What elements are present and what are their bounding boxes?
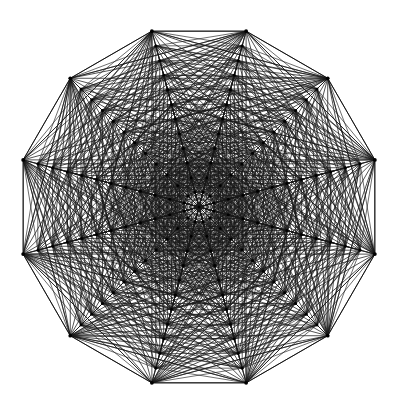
graph-vertex [315,323,318,326]
graph-vertex [186,162,189,165]
graph-vertex [80,174,83,177]
graph-vertex [112,291,115,294]
graph-vertex [158,352,161,355]
graph-vertex [285,182,288,185]
graph-vertex [187,195,190,198]
graph-vertex [122,130,125,133]
graph-vertex [166,88,169,91]
graph-vertex [168,213,171,216]
graph-vertex [201,191,204,194]
graph-vertex [205,176,208,179]
graph-vertex [21,252,25,256]
graph-vertex [271,225,274,228]
graph-vertex [233,337,236,340]
graph-vertex [155,248,158,251]
graph-vertex [329,170,332,173]
graph-vertex [133,141,136,144]
graph-vertex [165,238,168,241]
graph-vertex [237,59,240,62]
graph-vertex [182,147,185,150]
graph-vertex [90,313,93,316]
graph-vertex [154,44,157,47]
graph-vertex [217,279,220,282]
graph-vertex [273,130,276,133]
graph-vertex [225,308,228,311]
graph-vertex [124,225,127,228]
graph-vertex [300,178,303,181]
graph-vertex [170,103,173,106]
graph-vertex [190,176,193,179]
graph-vertex [208,195,211,198]
graph-vertex [329,241,332,244]
graph-vertex [241,217,244,220]
graph-vertex [240,163,243,166]
graph-vertex [80,88,83,91]
graph-vertex [80,323,83,326]
graph-vertex [233,74,236,77]
graph-vertex [68,76,72,80]
graph-vertex [174,293,177,296]
graph-vertex [240,248,243,251]
graph-vertex [183,202,186,205]
graph-vertex [221,293,224,296]
graph-vertex [294,302,297,305]
graph-vertex [209,249,212,252]
graph-vertex [300,233,303,236]
graph-vertex [95,178,98,181]
graph-vertex [166,323,169,326]
graph-vertex [294,109,297,112]
graph-vertex [182,264,185,267]
graph-vertex [170,308,173,311]
graph-vertex [212,209,215,212]
geometric-graph-canvas: Complete geometric graph on a 12-fold co… [0,0,397,406]
graph-vertex [110,229,113,232]
graph-vertex [262,270,265,273]
graph-vertex [229,323,232,326]
graph-vertex [36,162,39,165]
graph-vertex [201,220,204,223]
graph-vertex [213,264,216,267]
graph-vertex [154,217,157,220]
graph-vertex [101,109,104,112]
graph-vertex [150,29,154,33]
graph-vertex [344,245,347,248]
graph-vertex [241,367,244,370]
graph-vertex [90,98,93,101]
graph-vertex [144,152,147,155]
graph-vertex [36,249,39,252]
graph-vertex [326,76,330,80]
graph-vertex [178,279,181,282]
graph-vertex [230,238,233,241]
graph-vertex [186,249,189,252]
graph-vertex [154,194,157,197]
graph-vertex [229,88,232,91]
graph-vertex [51,166,54,169]
graph-vertex [315,174,318,177]
graph-vertex [373,158,377,162]
graph-vertex [154,367,157,370]
graph-vertex [373,252,377,256]
graph-vertex [66,241,69,244]
graph-vertex [51,245,54,248]
graph-vertex [344,166,347,169]
graph-vertex [285,229,288,232]
graph-vertex [101,302,104,305]
graph-vertex [194,191,197,194]
graph-vertex [133,270,136,273]
graph-vertex [251,152,254,155]
graph-vertex [283,120,286,123]
graph-vertex [230,173,233,176]
graph-vertex [359,249,362,252]
graph-vertex [221,118,224,121]
graph-vertex [271,186,274,189]
graph-vertex [237,352,240,355]
graph-vertex [187,216,190,219]
graph-vertex [168,198,171,201]
graph-vertex [66,170,69,173]
graph-vertex [244,29,248,33]
graph-vertex [241,194,244,197]
graph-vertex [155,163,158,166]
graph-vertex [217,132,220,135]
graph-vertex [178,132,181,135]
graph-vertex [21,158,25,162]
